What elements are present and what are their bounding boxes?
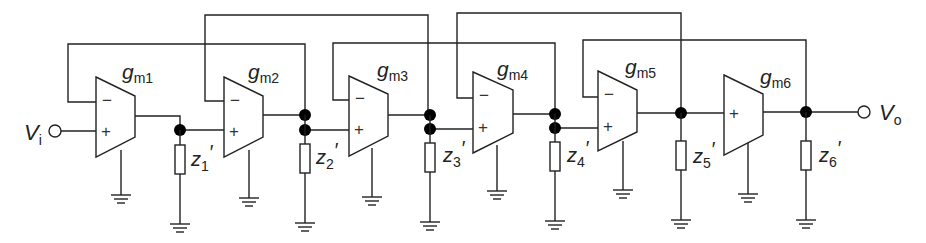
gm1-label: gm1 [122,60,153,86]
impedance-z2 [295,115,315,231]
gm5-label: gm5 [625,55,656,81]
plus-sign: + [603,117,613,136]
input-terminal [49,125,96,137]
ota-gm1: − + [96,77,135,195]
z6-label: z6′ [818,137,842,170]
ota-gm5: − + [598,71,637,190]
gm6-label: gm6 [760,65,791,91]
minus-sign: − [230,91,240,110]
ota-gm6: + [724,75,763,194]
z1-label: z1′ [190,141,214,174]
input-label: Vi [24,120,42,148]
ground-icon [738,194,758,202]
plus-sign: + [229,122,239,141]
impedance-z4 [545,114,565,229]
plus-sign: + [478,118,488,137]
ota-gm3: − + [349,76,388,197]
ota-gm2: − + [224,77,263,198]
minus-sign: − [604,85,614,104]
ground-icon [613,190,633,198]
circuit-diagram: Vi − + gm1 z1′ − + gm2 z2′ [0,0,926,243]
plus-sign: + [729,104,739,123]
impedance-z5 [671,113,691,228]
gm4-label: gm4 [497,57,528,83]
plus-sign: + [354,120,364,139]
impedance-z3 [420,115,440,230]
z5-label: z5′ [692,138,716,171]
output-label: Vo [879,100,902,128]
impedance-z6 [796,112,816,228]
z2-label: z2′ [315,139,339,172]
minus-sign: − [479,86,489,105]
minus-sign: − [355,89,365,108]
output-terminal [858,106,870,118]
ground-icon [111,195,131,203]
gm2-label: gm2 [248,60,279,86]
gm3-label: gm3 [377,58,408,84]
ground-icon [487,191,507,199]
plus-sign: + [101,122,111,141]
ground-icon [239,198,259,206]
impedance-z1 [170,130,190,232]
ota-gm4: − + [473,72,513,191]
z4-label: z4′ [566,137,590,170]
ground-icon [362,197,382,205]
minus-sign: − [102,91,112,110]
z3-label: z3′ [442,137,466,170]
